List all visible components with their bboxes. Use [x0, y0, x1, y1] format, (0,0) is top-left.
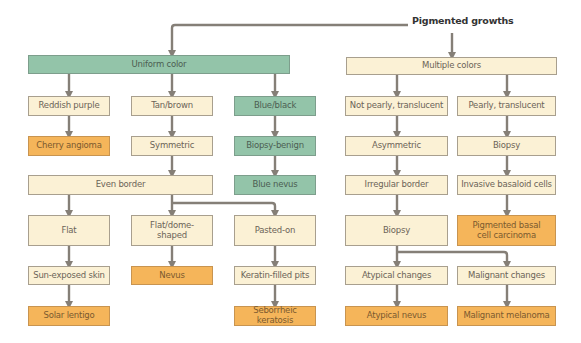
diagnosis-cherry-angioma: Cherry angioma — [28, 136, 110, 156]
node-symmetric: Symmetric — [131, 136, 213, 156]
node-tan-brown: Tan/brown — [131, 96, 213, 116]
node-even-border: Even border — [28, 175, 213, 195]
node-reddish-purple: Reddish purple — [28, 96, 110, 116]
diagnosis-atypical-nevus: Atypical nevus — [345, 306, 448, 326]
diagnosis-nevus: Nevus — [131, 266, 213, 285]
node-pasted-on: Pasted-on — [234, 215, 316, 246]
node-irregular-border: Irregular border — [345, 175, 448, 195]
node-biopsy-not-pearly: Biopsy — [345, 215, 448, 246]
node-sun-exposed-skin: Sun-exposed skin — [28, 266, 110, 285]
node-malignant-changes: Malignant changes — [457, 266, 556, 285]
node-flat-dome-shaped: Flat/dome-shaped — [131, 215, 213, 246]
node-uniform-color: Uniform color — [28, 55, 290, 74]
diagnosis-blue-nevus: Blue nevus — [234, 175, 316, 195]
node-flat: Flat — [28, 215, 110, 246]
node-asymmetric: Asymmetric — [345, 136, 448, 156]
node-not-pearly-translucent: Not pearly, translucent — [345, 96, 448, 116]
connector-arrows — [0, 0, 581, 343]
node-invasive-basaloid-cells: Invasive basaloid cells — [457, 175, 556, 195]
root-node-pigmented-growths: Pigmented growths — [412, 15, 514, 26]
diagnosis-solar-lentigo: Solar lentigo — [28, 306, 110, 326]
node-biopsy-pearly: Biopsy — [457, 136, 556, 156]
diagnosis-seborrheic-keratosis: Seborrheic keratosis — [234, 306, 316, 326]
node-multiple-colors: Multiple colors — [346, 57, 557, 75]
node-biopsy-benign: Biopsy-benign — [234, 136, 316, 156]
diagnosis-malignant-melanoma: Malignant melanoma — [457, 306, 556, 326]
node-blue-black: Blue/black — [234, 96, 316, 116]
node-keratin-filled-pits: Keratin-filled pits — [234, 266, 316, 285]
node-pearly-translucent: Pearly, translucent — [457, 96, 556, 116]
diagnosis-pigmented-basal-cell-carcinoma: Pigmented basal cell carcinoma — [457, 215, 556, 246]
node-atypical-changes: Atypical changes — [345, 266, 448, 285]
